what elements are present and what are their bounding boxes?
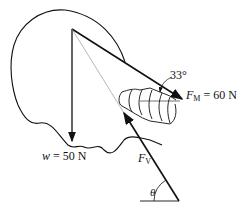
fv-label: FV — [138, 152, 151, 166]
fm-subscript: M — [193, 94, 200, 103]
fm-label: FM = 60 N — [186, 89, 237, 103]
fv-subscript: V — [145, 157, 151, 166]
theta-label: θ — [150, 187, 155, 198]
free-body-diagram: 33° FM = 60 N w = 50 N FV θ — [0, 0, 243, 206]
head-outline — [11, 10, 162, 153]
fm-arrow — [72, 29, 182, 99]
fm-value: = 60 N — [203, 88, 236, 102]
fv-line-of-action — [72, 29, 124, 113]
w-label: w = 50 N — [42, 150, 86, 162]
w-symbol: w — [42, 149, 50, 163]
w-value: = 50 N — [53, 149, 86, 163]
theta-arc — [154, 180, 166, 201]
diagram-drawing — [0, 0, 243, 206]
angle-33-label: 33° — [170, 69, 187, 81]
